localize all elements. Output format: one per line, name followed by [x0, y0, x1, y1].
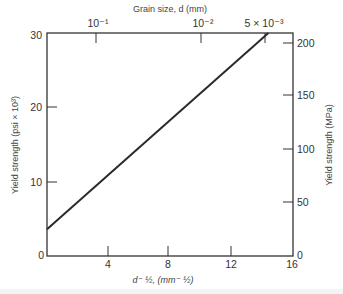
plot-frame	[47, 33, 293, 256]
cropped-caption	[0, 289, 343, 294]
left-tick-label: 0	[38, 249, 44, 261]
top-tick-label: 5 × 10⁻³	[245, 17, 284, 29]
right-tick-label: 100	[297, 143, 315, 155]
bottom-axis-title: d⁻ ½, (mm⁻ ½)	[132, 275, 193, 285]
bottom-tick-label: 16	[286, 258, 298, 270]
left-tick-label: 10	[30, 176, 42, 188]
left-tick-label: 30	[30, 29, 42, 41]
right-tick-label: 150	[297, 89, 315, 101]
right-axis-title: Yield strength (MPa)	[324, 104, 334, 186]
left-axis-title: Yield strength (psi × 10³)	[10, 96, 20, 194]
yield-strength-line	[47, 33, 268, 229]
bottom-tick-label: 12	[225, 258, 237, 270]
top-tick-label: 10⁻²	[192, 17, 214, 29]
top-axis-title: Grain size, d (mm)	[133, 4, 207, 14]
bottom-tick-label: 4	[105, 258, 111, 270]
right-tick-label: 0	[297, 249, 303, 261]
right-tick-label: 200	[297, 37, 315, 49]
left-tick-label: 20	[30, 101, 42, 113]
bottom-tick-label: 8	[165, 258, 171, 270]
hall-petch-chart: Grain size, d (mm) 10⁻¹ 10⁻² 5 × 10⁻³ 30…	[0, 0, 343, 294]
top-tick-label: 10⁻¹	[87, 17, 109, 29]
right-tick-label: 50	[297, 196, 309, 208]
